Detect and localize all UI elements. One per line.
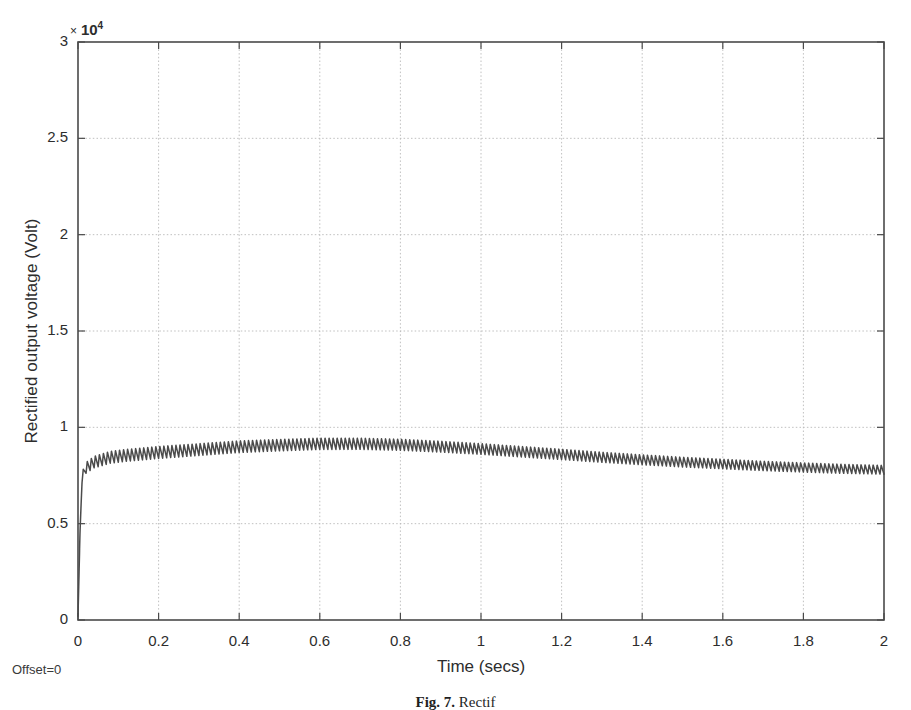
x-tick-label: 1.8 (773, 632, 833, 649)
y-tick-label: 1 (22, 417, 68, 434)
x-tick-label: 1.2 (532, 632, 592, 649)
x-tick-label: 0.8 (370, 632, 430, 649)
x-tick-label: 1 (451, 632, 511, 649)
y-tick-label: 0 (22, 610, 68, 627)
figure-rectified-output-voltage: × 104 Rectified output voltage (Volt) Ti… (0, 0, 911, 710)
multiply-symbol: × (70, 24, 77, 38)
grid-lines (78, 42, 884, 620)
x-tick-label: 1.6 (693, 632, 753, 649)
x-tick-label: 0.6 (290, 632, 350, 649)
x-tick-label: 0 (48, 632, 108, 649)
figure-caption-text: Rectif (459, 694, 496, 710)
y-tick-label: 3 (22, 32, 68, 49)
scope-plot (0, 0, 911, 710)
y-tick-label: 2.5 (22, 128, 68, 145)
scale-exponent: 4 (98, 20, 104, 31)
scale-base: 10 (81, 21, 98, 38)
x-tick-label: 0.4 (209, 632, 269, 649)
figure-number: Fig. 7. (416, 694, 456, 710)
y-tick-label: 0.5 (22, 514, 68, 531)
x-axis-label: Time (secs) (78, 657, 884, 677)
figure-caption: Fig. 7. Rectif (0, 694, 911, 710)
offset-annotation: Offset=0 (12, 662, 61, 677)
y-tick-label: 1.5 (22, 321, 68, 338)
x-tick-label: 0.2 (129, 632, 189, 649)
x-tick-label: 1.4 (612, 632, 672, 649)
x-tick-label: 2 (854, 632, 911, 649)
y-axis-scale-multiplier: × 104 (70, 20, 103, 38)
y-tick-label: 2 (22, 225, 68, 242)
